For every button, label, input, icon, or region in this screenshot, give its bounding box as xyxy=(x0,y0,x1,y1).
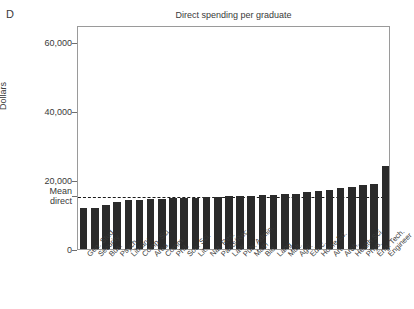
y-tick-label: 40,000 xyxy=(4,107,72,117)
y-tick-label: 20,000 xyxy=(4,176,72,186)
y-axis: 020,00040,00060,000Meandirect xyxy=(0,0,72,309)
y-tick-label: 60,000 xyxy=(4,38,72,48)
y-tick-label: 0 xyxy=(4,245,72,255)
mean-direct-label: Meandirect xyxy=(4,186,72,206)
x-axis-labels: Gen. Stud.SecurityBus.Psych.LibraryComp.… xyxy=(77,252,390,309)
bar xyxy=(270,195,278,249)
plot-area xyxy=(77,26,390,250)
mean-direct-label-line2: direct xyxy=(4,196,72,206)
bar xyxy=(382,166,390,249)
mean-direct-label-line1: Mean xyxy=(4,186,72,196)
bar xyxy=(80,208,88,249)
chart-title: Direct spending per graduate xyxy=(77,10,390,20)
y-tick-mark xyxy=(72,250,77,251)
bar-series xyxy=(78,27,389,249)
